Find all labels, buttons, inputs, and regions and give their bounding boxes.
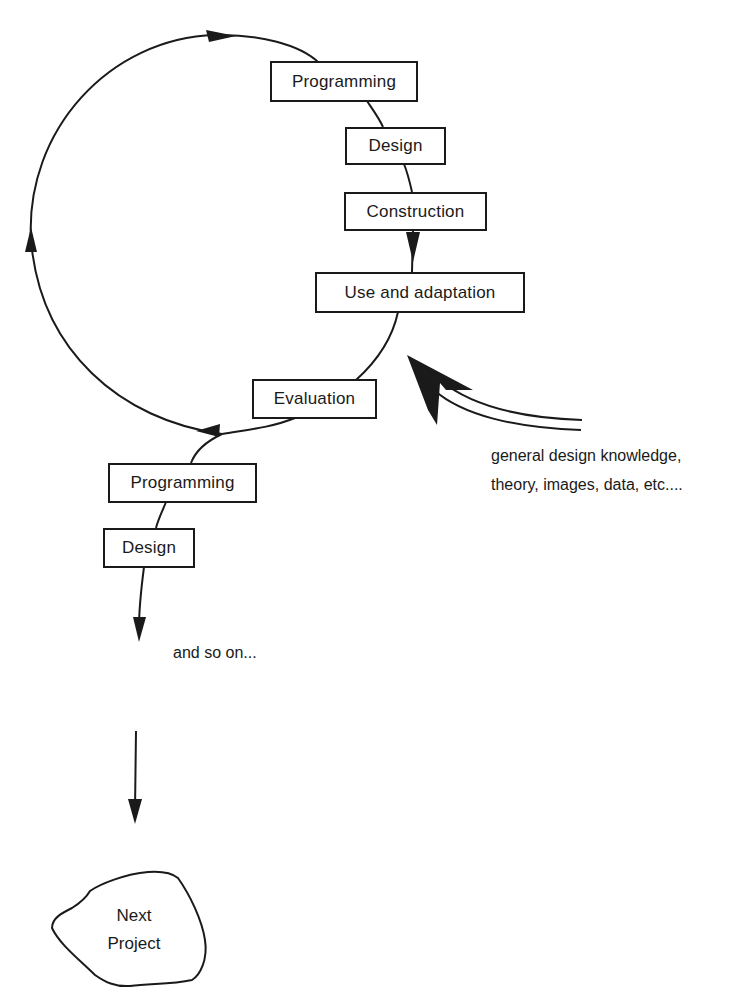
edge-use-evaluation (356, 312, 398, 380)
edge-design-construction (404, 164, 412, 192)
arrowhead-continue (133, 617, 146, 642)
next-project-line-1: Next (84, 902, 184, 930)
step-label: Design (368, 136, 422, 156)
step-design: Design (345, 127, 446, 165)
step-label: Programming (292, 72, 396, 92)
step-label: Evaluation (274, 389, 355, 409)
arrowhead-top (206, 30, 236, 42)
next-project-label: Next Project (84, 902, 184, 958)
arrowhead-left (25, 227, 37, 252)
edge-programming2-design2 (156, 502, 166, 528)
continuation-label: and so on... (173, 638, 257, 667)
step-use-and-adaptation: Use and adaptation (315, 272, 525, 313)
step-design-next: Design (103, 528, 195, 568)
arrowhead-junction (196, 424, 220, 437)
arrowhead-construction-use (406, 232, 420, 262)
edge-continue-nextproject (135, 731, 136, 810)
arrowhead-input (407, 355, 473, 425)
edge-junction-programming2 (191, 434, 222, 463)
step-programming: Programming (270, 61, 418, 102)
input-label-line-2: theory, images, data, etc.... (491, 470, 683, 499)
step-evaluation: Evaluation (252, 379, 377, 419)
step-programming-next: Programming (108, 463, 257, 503)
step-construction: Construction (344, 192, 487, 231)
input-label: general design knowledge, theory, images… (491, 441, 683, 499)
edge-programming-design (367, 101, 383, 127)
step-label: Construction (367, 202, 465, 222)
input-label-line-1: general design knowledge, (491, 441, 683, 470)
arrowhead-nextproject (128, 799, 142, 824)
step-label: Programming (130, 473, 234, 493)
edge-evaluation-junction (222, 418, 295, 434)
step-label: Design (122, 538, 176, 558)
step-label: Use and adaptation (344, 283, 495, 303)
next-project-line-2: Project (84, 930, 184, 958)
